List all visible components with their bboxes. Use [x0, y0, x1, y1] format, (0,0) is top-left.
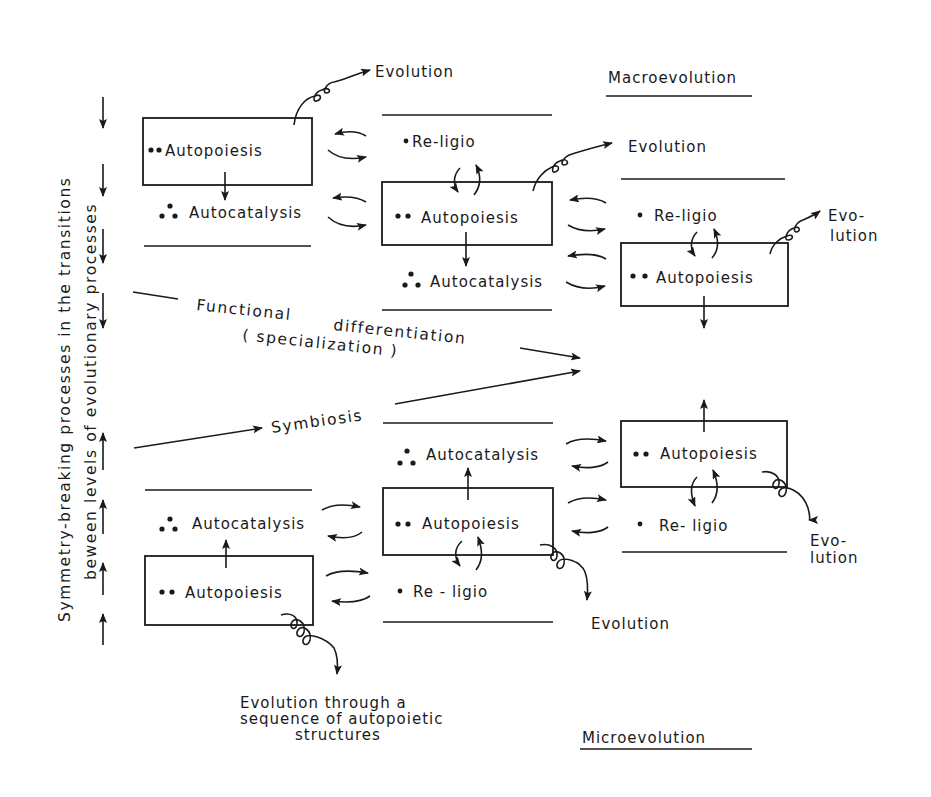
- exchange-arrows-lower-1-2: [322, 505, 370, 602]
- autocatalysis-label: Autocatalysis: [430, 273, 543, 291]
- evolution-label: Evolution: [591, 615, 670, 633]
- autopoiesis-label: Autopoiesis: [185, 584, 283, 602]
- autocatalysis-label: Autocatalysis: [426, 446, 539, 464]
- autopoiesis-label: Autopoiesis: [656, 269, 754, 287]
- exchange-arrows-upper-2-3: [566, 198, 606, 288]
- cycle-arrow-icon: [474, 165, 480, 195]
- autopoiesis-label: Autopoiesis: [421, 209, 519, 227]
- evolution-spiral-icon: [540, 545, 588, 600]
- evolution-spiral-icon: [294, 70, 370, 125]
- arrow-right-icon: [395, 371, 580, 404]
- lower-level-2: Autocatalysis Autopoiesis Re - ligio Evo…: [383, 423, 670, 633]
- connector-line: [133, 292, 178, 299]
- religio-label: Re- ligio: [659, 517, 728, 535]
- lower-level-3: Autopoiesis Re- ligio Evo- lution: [621, 400, 858, 567]
- bottom-caption: Evolution through a sequence of autopoie…: [240, 694, 443, 744]
- evolution-label: Evolution: [375, 63, 454, 81]
- microevolution-heading: Microevolution: [582, 729, 706, 747]
- cycle-arrow-icon: [691, 232, 697, 256]
- symbiosis-label: Symbiosis: [270, 406, 364, 437]
- autocatalysis-label: Autocatalysis: [189, 204, 302, 222]
- side-label-line2: beween levels of evolutionary processes: [82, 203, 100, 580]
- arrow-right-icon: [134, 428, 262, 448]
- cycle-arrow-icon: [691, 477, 697, 506]
- side-label-line1: Symmetry-breaking processes in the trans…: [56, 176, 74, 622]
- functional-differentiation: Functional differentiation ( specializat…: [133, 292, 580, 360]
- evolution-spiral-icon: [533, 143, 612, 191]
- religio-label: Re - ligio: [413, 583, 488, 601]
- evolution-label-line1: Evo-: [810, 532, 847, 550]
- macroevolution-heading: Macroevolution: [608, 69, 737, 87]
- evolution-label: Evolution: [628, 138, 707, 156]
- autopoiesis-label: Autopoiesis: [165, 142, 263, 160]
- religio-label: Re-ligio: [412, 133, 476, 151]
- upper-level-1: Autopoiesis Autocatalysis Evolution: [143, 63, 454, 246]
- exchange-arrows-upper-1-2: [328, 132, 366, 226]
- evolution-spiral-icon: [281, 614, 338, 674]
- autocatalysis-label: Autocatalysis: [192, 515, 305, 533]
- upper-level-3: Re-ligio Autopoiesis Evo- lution: [621, 179, 878, 328]
- cycle-arrow-icon: [454, 168, 460, 192]
- autopoiesis-evolution-diagram: Symmetry-breaking processes in the trans…: [0, 0, 931, 797]
- evolution-label-line2: lution: [830, 227, 878, 245]
- arrow-right-icon: [520, 348, 580, 358]
- exchange-arrows-lower-2-3: [566, 439, 608, 533]
- cycle-arrow-icon: [476, 537, 482, 570]
- side-label: Symmetry-breaking processes in the trans…: [56, 176, 100, 622]
- caption-line3: structures: [295, 726, 381, 744]
- autopoiesis-label: Autopoiesis: [422, 515, 520, 533]
- cycle-arrow-icon: [456, 541, 462, 566]
- lower-level-1: Autocatalysis Autopoiesis: [145, 490, 338, 674]
- evolution-spiral-icon: [770, 211, 820, 254]
- evolution-spiral-icon: [762, 472, 810, 520]
- evolution-label-line1: Evo-: [828, 207, 865, 225]
- evolution-label-line2: lution: [810, 549, 858, 567]
- autopoiesis-label: Autopoiesis: [660, 445, 758, 463]
- symbiosis: Symbiosis: [134, 371, 580, 448]
- religio-label: Re-ligio: [654, 207, 718, 225]
- functional-label: Functional: [196, 296, 293, 324]
